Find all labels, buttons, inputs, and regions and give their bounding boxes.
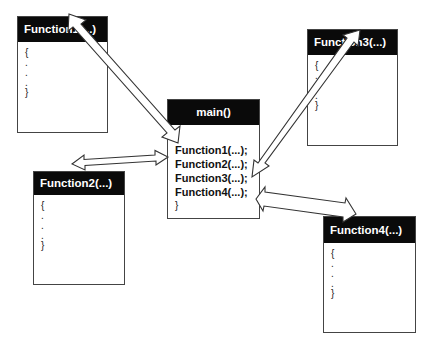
arrows-layer: [0, 0, 436, 349]
arrow-function3: [252, 30, 360, 177]
arrow-function4: [256, 187, 356, 222]
arrow-function1: [68, 14, 180, 143]
arrow-function2: [72, 151, 168, 171]
